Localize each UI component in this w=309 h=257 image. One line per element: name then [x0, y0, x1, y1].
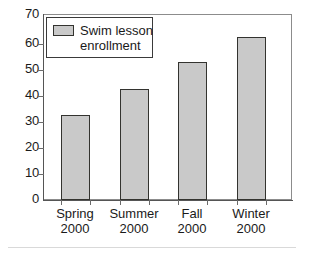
- bar-fall-2000[interactable]: [178, 62, 207, 200]
- y-tick-label-50: 50: [25, 62, 39, 75]
- legend-label-line1: Swim lesson: [80, 23, 153, 38]
- x-axis-line: [43, 200, 293, 201]
- bar-winter-2000[interactable]: [237, 37, 266, 200]
- x-label-fall-line1: Fall: [182, 206, 203, 221]
- y-tick-label-60: 60: [25, 36, 39, 49]
- x-tick-mark-4: [149, 200, 150, 205]
- legend-item-swim-lesson-enrollment: Swim lesson enrollment: [53, 23, 153, 53]
- x-tick-mark-1: [61, 200, 62, 205]
- y-tick-label-10: 10: [25, 166, 39, 179]
- y-tick-label-0: 0: [32, 192, 39, 205]
- y-tick-label-40: 40: [25, 88, 39, 101]
- x-tick-mark-7: [237, 200, 238, 205]
- x-tick-mark-6: [207, 200, 208, 205]
- x-tick-mark-5: [178, 200, 179, 205]
- bar-chart-figure: 0 10 20 30 40 50 60 70: [0, 0, 309, 257]
- x-tick-mark-3: [120, 200, 121, 205]
- x-tick-mark-2: [90, 200, 91, 205]
- y-tick-label-70: 70: [25, 7, 39, 20]
- footer-divider: [8, 247, 296, 248]
- y-tick-label-20: 20: [25, 140, 39, 153]
- legend-swatch-icon: [53, 25, 74, 36]
- bar-summer-2000[interactable]: [120, 89, 149, 200]
- legend-label: Swim lesson enrollment: [80, 23, 153, 53]
- x-label-summer-line1: Summer: [109, 206, 158, 221]
- x-label-winter-line1: Winter: [232, 206, 270, 221]
- x-tick-mark-8: [266, 200, 267, 205]
- y-tick-label-30: 30: [25, 114, 39, 127]
- x-label-spring-line1: Spring: [56, 206, 94, 221]
- x-label-winter-line2: 2000: [213, 221, 289, 236]
- legend-label-line2: enrollment: [80, 38, 153, 53]
- bar-spring-2000[interactable]: [61, 115, 90, 200]
- chart-legend: Swim lesson enrollment: [46, 17, 153, 58]
- x-label-winter-2000: Winter 2000: [213, 206, 289, 236]
